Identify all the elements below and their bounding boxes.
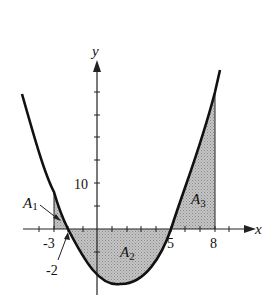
x-tick-neg3-label: -3	[43, 236, 55, 251]
y-axis-arrow-icon	[93, 60, 101, 72]
neg2-pointer	[58, 236, 67, 260]
y-axis-label: y	[90, 43, 99, 59]
region-a1-label: A1	[22, 195, 38, 212]
x-axis-label: x	[254, 221, 262, 237]
x-tick-5-label: 5	[167, 236, 174, 251]
graph: y x 10 -3 -2 5 8 A1 A2 A3	[0, 0, 277, 308]
y-tick-10-label: 10	[74, 177, 88, 192]
x-tick-neg2-label: -2	[46, 263, 58, 278]
x-tick-8-label: 8	[210, 236, 217, 251]
